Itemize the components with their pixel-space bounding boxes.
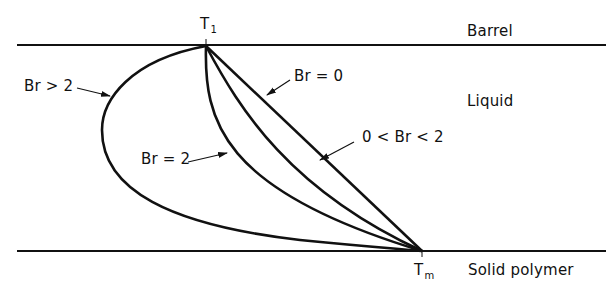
region-label-barrel: Barrel bbox=[467, 24, 513, 39]
t1-sub: 1 bbox=[210, 24, 217, 35]
tm-sub: m bbox=[424, 270, 434, 281]
curve-label-br-gt-2: Br > 2 bbox=[24, 79, 73, 94]
curve-label-br-0: Br = 0 bbox=[294, 69, 343, 84]
curve-br-gt-2 bbox=[102, 46, 422, 251]
point-label-t1: T1 bbox=[200, 17, 217, 32]
region-label-liquid: Liquid bbox=[467, 94, 513, 109]
point-label-tm: Tm bbox=[414, 263, 434, 278]
t1-main: T bbox=[200, 15, 209, 33]
tm-main: T bbox=[414, 261, 423, 279]
temperature-profile-diagram bbox=[0, 0, 616, 296]
leader-br-2 bbox=[188, 153, 227, 162]
leader-br-between bbox=[320, 142, 354, 160]
curve-label-br-2: Br = 2 bbox=[141, 152, 190, 167]
leader-br-gt-2 bbox=[77, 88, 110, 96]
region-label-solid: Solid polymer bbox=[468, 263, 574, 278]
leader-br-0 bbox=[267, 80, 290, 95]
curve-label-br-between: 0 < Br < 2 bbox=[362, 130, 444, 145]
